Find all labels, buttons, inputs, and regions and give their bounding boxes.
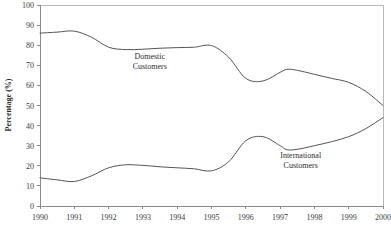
y-tick-label: 0 — [30, 202, 34, 211]
y-tick-label: 80 — [26, 41, 34, 50]
x-tick-label: 1997 — [272, 213, 288, 222]
domestic-label-line2: Customers — [133, 62, 167, 71]
series-line-international-customers — [40, 118, 383, 182]
x-axis-tick-labels: 1990199119921993199419951996199719981999… — [32, 213, 391, 222]
y-tick-label: 50 — [26, 102, 34, 111]
y-tick-label: 90 — [26, 21, 34, 30]
x-tick-label: 1998 — [306, 213, 322, 222]
y-tick-label: 40 — [26, 122, 34, 131]
x-tick-label: 1992 — [101, 213, 117, 222]
y-tick-label: 70 — [26, 61, 34, 70]
x-tick-label: 1996 — [238, 213, 254, 222]
y-tick-label: 60 — [26, 81, 34, 90]
x-tick-label: 1991 — [66, 213, 82, 222]
x-tick-label: 1994 — [169, 213, 185, 222]
line-chart: 0102030405060708090100 19901991199219931… — [0, 0, 391, 230]
y-axis-title: Percentage (%) — [4, 78, 13, 131]
y-tick-label: 10 — [26, 182, 34, 191]
x-tick-label: 1999 — [341, 213, 357, 222]
series-line-domestic-customers — [40, 31, 383, 106]
y-axis-tick-labels: 0102030405060708090100 — [22, 1, 34, 211]
domestic-label-line1: Domestic — [134, 52, 165, 61]
international-customers-annotation: International Customers — [280, 151, 322, 170]
international-label-line1: International — [280, 151, 322, 160]
domestic-customers-annotation: Domestic Customers — [133, 52, 167, 71]
x-tick-label: 1993 — [135, 213, 151, 222]
y-tick-label: 100 — [22, 1, 34, 10]
x-tick-label: 2000 — [375, 213, 391, 222]
y-tick-label: 30 — [26, 142, 34, 151]
international-label-line2: Customers — [284, 161, 318, 170]
chart-container: 0102030405060708090100 19901991199219931… — [0, 0, 391, 230]
x-tick-label: 1990 — [32, 213, 48, 222]
y-tick-label: 20 — [26, 162, 34, 171]
x-tick-label: 1995 — [204, 213, 220, 222]
